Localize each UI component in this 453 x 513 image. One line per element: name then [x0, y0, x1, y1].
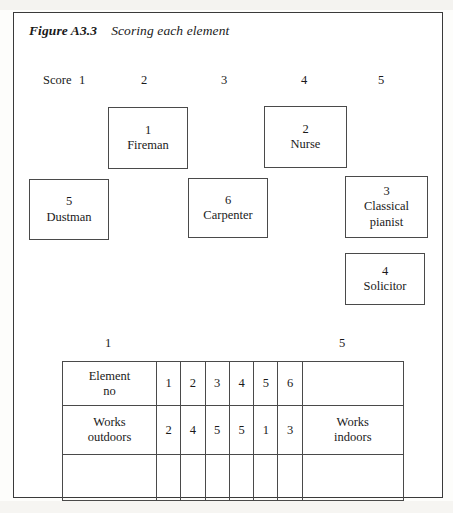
scan-edge-bottom: [0, 501, 453, 513]
element-number: 6: [225, 193, 231, 208]
element-box-classical-pianist: 3 Classical pianist: [345, 176, 428, 238]
empty-row-cell-3[interactable]: [205, 455, 229, 501]
score-tick-2: 2: [136, 73, 152, 88]
empty-row-cell-4[interactable]: [229, 455, 253, 501]
element-row-cell-3[interactable]: 3: [205, 362, 229, 406]
element-name: Solicitor: [363, 279, 406, 294]
empty-row-right-pole[interactable]: [302, 455, 403, 501]
score-tick-3: 3: [216, 73, 232, 88]
element-name: Classical pianist: [364, 199, 409, 230]
figure-caption: Figure A3.3Scoring each element: [29, 24, 229, 38]
score-scale-row: Score 1 2 3 4 5: [0, 73, 453, 93]
empty-row-cell-2[interactable]: [181, 455, 205, 501]
grid-tick-right: 5: [334, 336, 350, 351]
rating-grid: Element no 1 2 3 4 5 6 Works outdoors 2 …: [62, 361, 404, 501]
empty-row-left-pole[interactable]: [63, 455, 157, 501]
element-row-cell-2[interactable]: 2: [181, 362, 205, 406]
grid-scale-row: 1 5: [0, 336, 453, 354]
construct-row-right-pole: Works indoors: [302, 406, 403, 455]
element-name: Nurse: [291, 137, 321, 152]
element-box-carpenter: 6 Carpenter: [188, 178, 268, 238]
construct-row-cell-1[interactable]: 2: [157, 406, 181, 455]
element-row-left-pole: Element no: [63, 362, 157, 406]
score-scale-caption: Score: [43, 73, 71, 88]
table-row-empty: [63, 455, 404, 501]
construct-row-left-pole: Works outdoors: [63, 406, 157, 455]
element-name: Fireman: [127, 138, 169, 153]
element-name: Carpenter: [203, 208, 252, 223]
element-box-solicitor: 4 Solicitor: [345, 253, 425, 305]
element-row-cell-4[interactable]: 4: [229, 362, 253, 406]
element-row-right-pole: [302, 362, 403, 406]
score-tick-5: 5: [373, 73, 389, 88]
element-number: 1: [145, 123, 151, 138]
figure-title: Scoring each element: [111, 23, 229, 38]
element-name: Dustman: [46, 210, 91, 225]
score-tick-4: 4: [296, 73, 312, 88]
construct-row-cell-5[interactable]: 1: [254, 406, 278, 455]
grid-tick-left: 1: [100, 336, 116, 351]
element-number: 4: [382, 264, 388, 279]
element-number: 5: [66, 194, 72, 209]
table-row-construct: Works outdoors 2 4 5 5 1 3 Works indoors: [63, 406, 404, 455]
element-row-cell-6[interactable]: 6: [278, 362, 302, 406]
element-number: 3: [383, 184, 389, 199]
construct-row-cell-2[interactable]: 4: [181, 406, 205, 455]
element-number: 2: [302, 122, 308, 137]
table-row-element-no: Element no 1 2 3 4 5 6: [63, 362, 404, 406]
score-tick-1: 1: [74, 73, 90, 88]
scan-edge-top: [0, 0, 453, 10]
construct-row-cell-4[interactable]: 5: [229, 406, 253, 455]
construct-row-cell-6[interactable]: 3: [278, 406, 302, 455]
figure-label: Figure A3.3: [29, 23, 97, 38]
element-row-cell-1[interactable]: 1: [157, 362, 181, 406]
element-box-dustman: 5 Dustman: [29, 179, 109, 240]
element-box-nurse: 2 Nurse: [264, 106, 347, 168]
empty-row-cell-6[interactable]: [278, 455, 302, 501]
element-row-cell-5[interactable]: 5: [254, 362, 278, 406]
construct-row-cell-3[interactable]: 5: [205, 406, 229, 455]
empty-row-cell-5[interactable]: [254, 455, 278, 501]
empty-row-cell-1[interactable]: [157, 455, 181, 501]
element-box-fireman: 1 Fireman: [108, 107, 188, 169]
